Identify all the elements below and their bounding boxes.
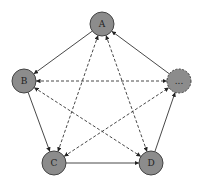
node-a: A [90,12,114,36]
node-label: D [147,158,154,168]
edge-c-e [64,88,169,157]
node-b: B [12,69,36,93]
node-label: A [98,19,106,29]
node-label: ... [175,76,184,86]
edge-a-b [34,31,93,74]
edge-b-c [28,92,50,151]
nodes-layer: AB...CD [12,12,191,175]
edge-a-c [58,35,98,151]
edges-layer [28,31,175,163]
edge-e-a [112,31,170,74]
node-ellipsis: ... [167,69,191,93]
edge-b-d [34,88,141,157]
node-d: D [139,151,163,175]
edge-d-e [155,92,175,151]
graph-diagram: AB...CD [0,0,205,188]
node-label: C [51,158,58,168]
node-c: C [42,151,66,175]
node-label: B [21,76,28,86]
